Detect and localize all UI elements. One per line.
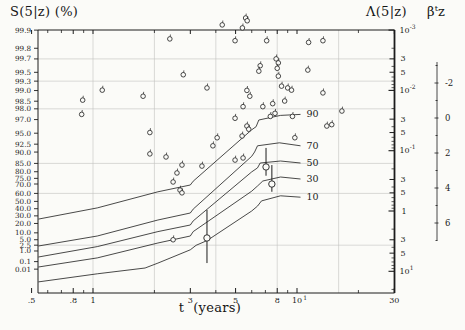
svg-text:99.8: 99.8 [15, 44, 31, 53]
svg-text:10-1: 10-1 [400, 143, 416, 155]
curve-50 [38, 161, 300, 257]
scatter-points [79, 14, 344, 242]
beta-axis-title: βtz [427, 4, 445, 19]
svg-text:3: 3 [401, 235, 406, 244]
svg-text:70.0: 70.0 [15, 180, 31, 189]
svg-text:10-2: 10-2 [400, 83, 416, 95]
curve-30 [38, 177, 300, 267]
svg-text:1.0: 1.0 [20, 246, 32, 255]
curve-10 [38, 196, 300, 282]
svg-text:90.0: 90.0 [15, 148, 31, 157]
right-axis-title: Λ(5|z) [366, 4, 407, 19]
curve-label-70: 70 [306, 140, 318, 151]
s-axis-labels: 99.999.899.799.599.399.098.598.097.095.0… [15, 26, 31, 274]
gridlines [38, 30, 395, 293]
percentile-curves: 9070503010 [38, 108, 318, 282]
svg-text:5: 5 [401, 188, 406, 197]
svg-text:2: 2 [445, 148, 450, 158]
error-bar-points [204, 148, 275, 263]
svg-text:30: 30 [389, 296, 399, 305]
svg-text:3: 3 [401, 115, 406, 124]
svg-text:0.01: 0.01 [15, 265, 31, 274]
survival-plot-svg: .5.813581013099.999.899.799.599.399.098.… [0, 0, 465, 330]
svg-text:99.7: 99.7 [15, 54, 31, 63]
curve-70 [38, 143, 300, 246]
curve-label-30: 30 [306, 173, 318, 184]
curve-label-50: 50 [306, 157, 318, 168]
svg-text:99.9: 99.9 [15, 26, 31, 35]
curve-label-10: 10 [306, 191, 318, 202]
beta-axis-title-tail: z [438, 4, 445, 19]
svg-text:10-3: 10-3 [400, 23, 416, 35]
svg-text:4: 4 [445, 183, 450, 193]
svg-text:99.5: 99.5 [15, 68, 31, 77]
svg-text:101: 101 [400, 264, 414, 276]
svg-text:8: 8 [275, 296, 280, 305]
svg-text:3: 3 [401, 54, 406, 63]
beta-axis-title-base: β [427, 4, 435, 19]
x-axis-ticks [32, 30, 395, 293]
svg-text:0: 0 [445, 113, 450, 123]
curve-90 [38, 114, 300, 219]
plot-frame [38, 30, 395, 293]
svg-text:95.0: 95.0 [15, 129, 31, 138]
svg-text:98.0: 98.0 [15, 104, 31, 113]
s-axis-ticks [34, 30, 38, 269]
curve-label-90: 90 [306, 108, 318, 119]
lambda-axis: 3510-33510-23510-1351101 [389, 23, 416, 290]
svg-text:99.3: 99.3 [15, 77, 31, 86]
svg-text:101: 101 [292, 294, 307, 305]
svg-text:99.0: 99.0 [15, 86, 31, 95]
svg-text:-2: -2 [445, 78, 453, 88]
svg-text:1: 1 [402, 207, 407, 216]
figure-canvas: .5.813581013099.999.899.799.599.399.098.… [0, 0, 465, 330]
svg-text:5: 5 [401, 128, 406, 137]
svg-text:.8: .8 [69, 296, 77, 305]
svg-text:5: 5 [401, 68, 406, 77]
svg-text:97.0: 97.0 [15, 115, 31, 124]
left-axis-title: S(5|z) (%) [10, 4, 78, 19]
x-axis-title: t (years) [145, 300, 275, 315]
beta-axis: -20246 [435, 62, 454, 241]
svg-text:3: 3 [401, 175, 406, 184]
svg-text:5: 5 [401, 249, 406, 258]
svg-text:1: 1 [90, 296, 95, 305]
svg-text:6: 6 [445, 218, 450, 228]
svg-text:.5: .5 [28, 296, 36, 305]
svg-text:20.0: 20.0 [15, 219, 31, 228]
